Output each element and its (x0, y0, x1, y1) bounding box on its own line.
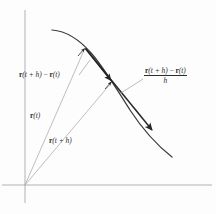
label-difference-vector: r(t + h) − r(t) (19, 71, 60, 79)
leader-lines-group (79, 60, 143, 93)
point-markers-group (78, 49, 111, 90)
difference-vector-secant (86, 49, 112, 81)
label-quotient-denominator: h (144, 76, 187, 84)
label-diff-minus: − (42, 70, 50, 79)
figure-canvas (0, 0, 216, 214)
vector-derivative-figure: r(t + h) − r(t) r(t) r(t + h) r(t + h) −… (0, 0, 216, 214)
position-vector-r-of-t-plus-h (25, 82, 112, 185)
difference-vectors-group (86, 49, 153, 131)
label-quotient-numerator: r(t + h) − r(t) (144, 67, 187, 76)
leader-line-quotient-label (121, 79, 143, 93)
label-position-vector-r-of-t-plus-h: r(t + h) (49, 137, 72, 145)
label-difference-quotient: r(t + h) − r(t) h (144, 67, 187, 85)
label-position-vector-r-of-t: r(t) (30, 112, 40, 120)
label-diff-arg1: (t + h) (22, 70, 41, 79)
label-quotient-arg2: (t) (179, 66, 186, 75)
label-quotient-minus: − (168, 66, 176, 75)
label-quotient-arg1: (t + h) (148, 66, 167, 75)
label-diff-arg2: (t) (53, 70, 60, 79)
label-rth-arg: (t + h) (52, 136, 71, 145)
axes-group (2, 10, 212, 203)
label-rt-arg: (t) (33, 111, 40, 120)
marker-line-point-t-plus-h (105, 82, 111, 89)
leader-line-difference-label (79, 60, 90, 75)
